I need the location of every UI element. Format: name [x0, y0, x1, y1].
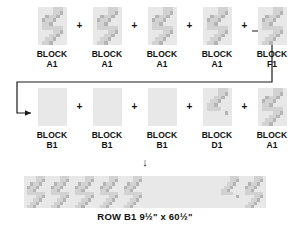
block-pattern-zigzag: [38, 7, 67, 45]
block-cell-b1-1-0: BLOCK B1: [30, 88, 74, 150]
quilt-block-swatch: [93, 88, 122, 126]
block-label: BLOCK B1: [92, 131, 123, 150]
block-pattern-plain: [38, 88, 67, 126]
block-pattern-plain: [93, 88, 122, 126]
plus-icon: +: [184, 7, 195, 45]
block-label: BLOCK A1: [202, 50, 233, 69]
quilt-block-swatch: [203, 88, 232, 126]
quilt-block-swatch: [258, 7, 287, 45]
block-pattern-zigzag: [203, 7, 232, 45]
plus-icon: +: [129, 7, 140, 45]
strip-pattern: [24, 176, 266, 208]
quilt-block-swatch: [148, 7, 177, 45]
block-cell-a1-0-3: BLOCK A1: [195, 7, 239, 69]
block-label: BLOCK A1: [257, 131, 288, 150]
block-cell-a1-0-2: BLOCK A1: [140, 7, 184, 69]
block-cell-b1-1-1: BLOCK B1: [85, 88, 129, 150]
quilt-block-swatch: [203, 7, 232, 45]
plus-icon: +: [184, 88, 195, 126]
block-row-2: BLOCK B1+BLOCK B1+BLOCK B1+BLOCK D1+BLOC…: [30, 88, 290, 150]
block-pattern-zigzag: [258, 88, 287, 126]
block-label: BLOCK A1: [147, 50, 178, 69]
block-label: BLOCK A1: [92, 50, 123, 69]
diagram-canvas: BLOCK A1+BLOCK A1+BLOCK A1+BLOCK A1+BLOC…: [0, 0, 290, 233]
down-arrow-icon: ↓: [0, 157, 290, 168]
block-cell-f1-0-4: BLOCK F1: [250, 7, 290, 69]
block-pattern-zigzag: [148, 7, 177, 45]
block-label: BLOCK A1: [37, 50, 68, 69]
quilt-block-swatch: [258, 88, 287, 126]
row-caption: ROW B1 9½" x 60½": [0, 211, 290, 222]
plus-icon: +: [74, 7, 85, 45]
plus-icon: +: [239, 88, 250, 126]
block-pattern-zigzag: [93, 7, 122, 45]
block-cell-d1-1-3: BLOCK D1: [195, 88, 239, 150]
block-pattern-plain: [148, 88, 177, 126]
block-cell-b1-1-2: BLOCK B1: [140, 88, 184, 150]
block-pattern-zigzag: [258, 7, 287, 45]
quilt-block-swatch: [148, 88, 177, 126]
plus-icon: +: [239, 7, 250, 45]
block-label: BLOCK B1: [147, 131, 178, 150]
plus-icon: +: [129, 88, 140, 126]
block-label: BLOCK D1: [202, 131, 233, 150]
block-label: BLOCK F1: [257, 50, 288, 69]
block-row-1: BLOCK A1+BLOCK A1+BLOCK A1+BLOCK A1+BLOC…: [30, 7, 290, 69]
plus-icon: +: [74, 88, 85, 126]
block-cell-a1-0-1: BLOCK A1: [85, 7, 129, 69]
quilt-block-swatch: [38, 88, 67, 126]
block-pattern-halfzigzag: [203, 88, 232, 126]
block-cell-a1-1-4: BLOCK A1: [250, 88, 290, 150]
row-b1-assembled-strip: [24, 176, 266, 208]
block-label: BLOCK B1: [37, 131, 68, 150]
quilt-block-swatch: [93, 7, 122, 45]
quilt-block-swatch: [38, 7, 67, 45]
block-cell-a1-0-0: BLOCK A1: [30, 7, 74, 69]
